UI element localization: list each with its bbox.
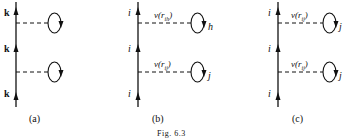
closed-loop xyxy=(191,13,204,33)
arrow-down-icon xyxy=(202,21,207,28)
arrow-down-icon xyxy=(59,21,64,28)
potential-label: v(rij) xyxy=(291,59,308,71)
arrow-down-icon xyxy=(59,70,64,77)
line-label: i xyxy=(128,89,131,99)
arrow-up-icon xyxy=(14,44,19,52)
closed-loop xyxy=(48,13,61,33)
arrow-down-icon xyxy=(334,70,339,77)
figure-caption: Fig. 6.3 xyxy=(157,129,186,138)
loop-label: j xyxy=(339,22,342,32)
panel-label: (c) xyxy=(292,113,303,124)
loop-label: j xyxy=(339,71,342,81)
line-label: k xyxy=(4,8,10,18)
loop-label: j xyxy=(208,71,211,81)
potential-label: v(rij) xyxy=(291,10,308,22)
panel-label: (a) xyxy=(29,113,40,124)
potential-label: v(rih) xyxy=(154,10,172,22)
arrow-up-icon xyxy=(136,7,141,15)
line-label: k xyxy=(4,44,10,54)
arrow-down-icon xyxy=(202,70,207,77)
line-label: i xyxy=(268,89,271,99)
arrow-up-icon xyxy=(136,92,141,100)
closed-loop xyxy=(323,62,336,82)
loop-label: h xyxy=(208,22,213,32)
panel-label: (b) xyxy=(152,113,164,124)
arrow-down-icon xyxy=(334,21,339,28)
closed-loop xyxy=(323,13,336,33)
potential-label: v(rij) xyxy=(154,59,171,71)
arrow-up-icon xyxy=(276,7,281,15)
arrow-up-icon xyxy=(136,44,141,52)
line-label: i xyxy=(128,8,131,18)
arrow-up-icon xyxy=(276,44,281,52)
closed-loop xyxy=(48,62,61,82)
line-label: k xyxy=(4,89,10,99)
panel-a-diagram xyxy=(14,2,64,107)
line-label: i xyxy=(128,44,131,54)
closed-loop xyxy=(191,62,204,82)
arrow-up-icon xyxy=(276,92,281,100)
arrow-up-icon xyxy=(14,92,19,100)
arrow-up-icon xyxy=(14,7,19,15)
line-label: i xyxy=(268,44,271,54)
line-label: i xyxy=(268,8,271,18)
